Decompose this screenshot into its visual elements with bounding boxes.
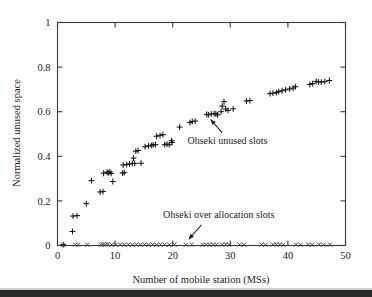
data-point (142, 243, 146, 247)
data-point (177, 124, 183, 130)
data-point (283, 87, 289, 93)
x-tick-label: 10 (110, 250, 121, 261)
footer-rule-dark (0, 290, 372, 297)
data-point (322, 243, 326, 247)
data-point (192, 118, 198, 124)
data-point (100, 189, 106, 195)
data-point (70, 229, 76, 235)
data-point (287, 86, 293, 92)
y-tick-label: 0.4 (37, 151, 51, 162)
x-axis-title: Number of mobile station (MSs) (132, 274, 270, 286)
y-tick-label: 0.6 (37, 106, 50, 117)
data-point (83, 201, 89, 207)
x-tick-label: 30 (225, 250, 236, 261)
data-point (138, 160, 144, 166)
x-tick-label: 0 (55, 250, 60, 261)
data-point (270, 90, 276, 96)
y-axis-title: Normalized unused space (11, 79, 22, 187)
data-point (281, 243, 285, 247)
x-tick-label: 20 (167, 250, 178, 261)
data-point (307, 82, 313, 88)
data-point (85, 243, 89, 247)
chart-canvas: 01020304050 00.20.40.60.81 Ohseki unused… (0, 0, 372, 297)
y-tick-label: 0.8 (37, 62, 50, 73)
data-point (317, 243, 321, 247)
data-point (126, 243, 130, 247)
data-point (150, 243, 154, 247)
figure-container: 01020304050 00.20.40.60.81 Ohseki unused… (0, 0, 372, 297)
data-point (157, 132, 163, 138)
data-point (184, 243, 188, 247)
y-tick-label: 0 (45, 240, 50, 251)
y-axis-tick-labels: 00.20.40.60.81 (37, 17, 51, 251)
data-point (74, 213, 80, 219)
data-point (190, 243, 194, 247)
data-point (154, 133, 160, 139)
data-point (122, 243, 126, 247)
data-point (259, 243, 263, 247)
data-point (110, 179, 116, 185)
data-point (142, 144, 148, 150)
data-point (163, 243, 167, 247)
data-point (131, 155, 137, 161)
data-point (76, 243, 80, 247)
x-tick-label: 40 (283, 250, 294, 261)
data-point (167, 243, 171, 247)
data-point (218, 109, 224, 115)
data-point (118, 243, 122, 247)
series-ohseki-over-allocation-slots (61, 242, 332, 247)
data-point (89, 178, 95, 184)
data-point (242, 243, 246, 247)
data-point (114, 243, 118, 247)
series-ohseki-unused-slots (60, 78, 332, 248)
data-point (214, 243, 218, 247)
data-point (310, 243, 314, 247)
x-axis-tick-labels: 01020304050 (55, 250, 351, 261)
data-point (138, 243, 142, 247)
data-series-layer (60, 78, 332, 248)
y-tick-label: 1 (45, 17, 50, 28)
data-point (322, 79, 328, 85)
annotation-label: Ohseki over allocation slots (163, 209, 274, 220)
y-tick-label: 0.2 (37, 196, 50, 207)
data-point (298, 243, 302, 247)
x-tick-label: 50 (340, 250, 351, 261)
data-point (159, 243, 163, 247)
data-point (154, 243, 158, 247)
data-point (326, 78, 332, 84)
annotation-layer: Ohseki unused slotsOhseki over allocatio… (163, 120, 274, 240)
data-point (134, 243, 138, 247)
data-point (279, 88, 285, 94)
data-point (130, 243, 134, 247)
data-point (294, 243, 298, 247)
annotation-label: Ohseki unused slots (187, 135, 267, 146)
data-point (146, 243, 150, 247)
data-point (160, 132, 166, 138)
data-point (328, 243, 332, 247)
data-point (263, 243, 267, 247)
data-point (124, 162, 130, 168)
data-point (230, 106, 236, 112)
data-point (306, 243, 310, 247)
data-point (237, 243, 241, 247)
data-point (247, 98, 253, 104)
data-point (110, 243, 114, 247)
